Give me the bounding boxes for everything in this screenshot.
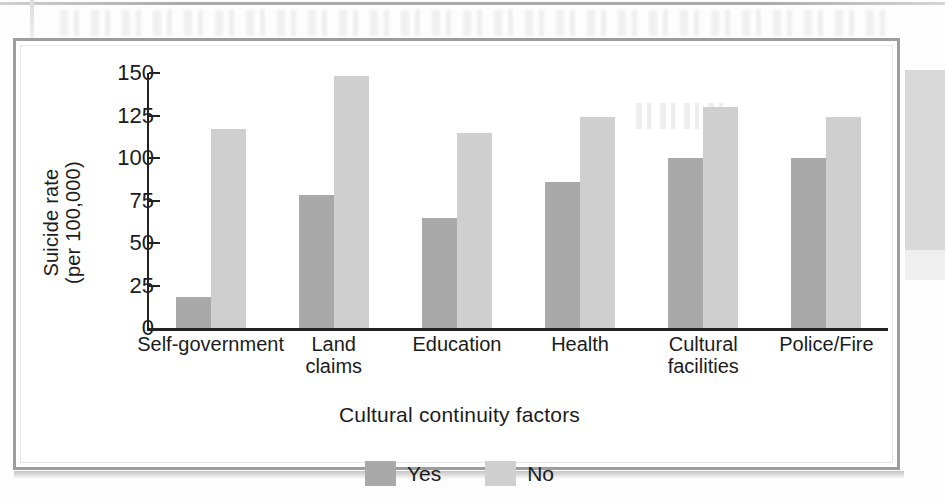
bar-no xyxy=(457,133,492,329)
x-tick-label: Land claims xyxy=(305,333,362,378)
y-axis-title: Suicide rate (per 100,000) xyxy=(41,128,84,318)
y-tick-mark xyxy=(149,115,160,117)
x-axis-line xyxy=(147,328,888,331)
y-tick-mark xyxy=(149,285,160,287)
bar-group xyxy=(791,73,861,328)
bar-yes xyxy=(545,182,580,328)
x-tick-label: Cultural facilities xyxy=(668,333,739,378)
bar-yes xyxy=(668,158,703,328)
scan-gray-block-right xyxy=(905,70,945,250)
legend-swatch-no xyxy=(485,461,516,486)
x-tick-label: Health xyxy=(551,333,609,355)
x-tick-label: Self-government xyxy=(137,333,284,355)
x-axis-tick-labels: Self-governmentLand claimsEducationHealt… xyxy=(149,333,888,389)
bar-yes xyxy=(299,195,334,328)
figure-frame: Suicide rate (per 100,000) 0255075100125… xyxy=(13,38,900,470)
bar-group xyxy=(299,73,369,328)
plot-area xyxy=(147,73,888,328)
bar-no xyxy=(826,117,861,328)
legend-label: No xyxy=(527,462,554,486)
legend-item: Yes xyxy=(365,461,441,486)
bar-group xyxy=(422,73,492,328)
bar-yes xyxy=(422,218,457,329)
bars-layer xyxy=(149,73,888,328)
bar-no xyxy=(211,129,246,328)
bar-yes xyxy=(176,297,211,328)
y-tick-mark xyxy=(149,157,160,159)
y-tick-mark xyxy=(149,200,160,202)
bar-group xyxy=(668,73,738,328)
bar-group xyxy=(545,73,615,328)
legend-swatch-yes xyxy=(365,461,396,486)
scan-gray-block-right-lower xyxy=(905,250,945,280)
x-tick-label: Police/Fire xyxy=(779,333,873,355)
y-tick-mark xyxy=(149,242,160,244)
chart-legend: YesNo xyxy=(16,461,903,486)
x-axis-title: Cultural continuity factors xyxy=(16,403,903,427)
bar-chart: Suicide rate (per 100,000) 0255075100125… xyxy=(16,41,903,473)
legend-item: No xyxy=(485,461,554,486)
bar-yes xyxy=(791,158,826,328)
x-tick-label: Education xyxy=(412,333,501,355)
legend-label: Yes xyxy=(407,462,441,486)
page-top-rule xyxy=(0,2,945,5)
y-tick-mark xyxy=(149,72,160,74)
bar-group xyxy=(176,73,246,328)
bar-no xyxy=(580,117,615,328)
bar-no xyxy=(703,107,738,328)
bar-no xyxy=(334,76,369,328)
scan-showthrough-text-top xyxy=(60,10,890,36)
